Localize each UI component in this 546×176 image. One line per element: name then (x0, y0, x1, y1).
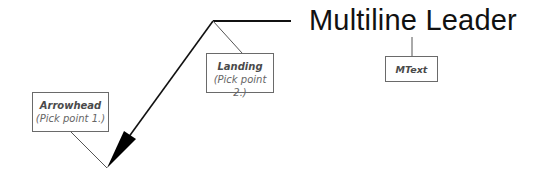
mtext-callout: MText (385, 56, 438, 82)
leader-line (128, 21, 213, 138)
arrowhead-label: Arrowhead (33, 99, 108, 112)
arrowhead-callout-line (70, 131, 107, 168)
landing-callout: Landing (Pick point 2.) (206, 53, 274, 93)
arrowhead-icon (107, 131, 136, 168)
landing-label: Landing (207, 60, 273, 73)
arrowhead-sublabel: (Pick point 1.) (33, 112, 108, 125)
arrowhead-callout: Arrowhead (Pick point 1.) (32, 92, 109, 132)
landing-sublabel: (Pick point 2.) (207, 73, 273, 99)
landing-callout-line (213, 21, 242, 53)
diagram-title: Multiline Leader (309, 4, 517, 37)
mtext-label: MText (386, 63, 437, 76)
